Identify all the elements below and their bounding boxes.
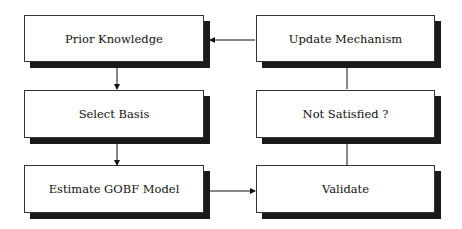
node-label: Not Satisfied ?: [303, 107, 389, 121]
node-prior-knowledge: Prior Knowledge: [24, 15, 204, 62]
node-select-basis: Select Basis: [24, 90, 204, 138]
node-label: Select Basis: [79, 107, 150, 121]
node-update-mechanism: Update Mechanism: [256, 15, 435, 62]
node-label: Prior Knowledge: [65, 32, 163, 46]
node-label: Update Mechanism: [289, 32, 403, 46]
node-not-satisfied: Not Satisfied ?: [256, 90, 435, 138]
node-label: Estimate GOBF Model: [49, 182, 180, 196]
node-validate: Validate: [256, 165, 435, 213]
node-estimate-gobf-model: Estimate GOBF Model: [24, 165, 204, 213]
node-label: Validate: [322, 182, 369, 196]
